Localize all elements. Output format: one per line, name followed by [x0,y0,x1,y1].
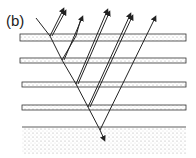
layers [20,34,186,127]
substrate [22,128,186,154]
diagram: (b) [0,0,196,158]
rays [36,10,155,139]
ray-diagram [0,0,196,158]
